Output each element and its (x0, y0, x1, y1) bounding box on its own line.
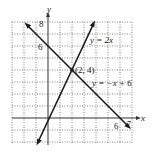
x-tick-7: 7 (127, 120, 131, 129)
arrow-icon (90, 21, 95, 28)
line-label-y-2x: y = 2x (89, 35, 113, 45)
y-tick-8: 8 (39, 19, 44, 29)
y-axis-label: y (46, 4, 51, 14)
arrow-icon (37, 139, 42, 146)
line-label-neg-x-6: y = −x + 6 (91, 78, 132, 88)
intersection-point (70, 68, 74, 72)
y-tick-6: 6 (38, 42, 43, 52)
line-y-equals-neg-x-plus-6 (25, 23, 132, 130)
line-y-equals-2x (37, 21, 96, 146)
x-axis-label: x (140, 113, 145, 123)
intersection-label: (2, 4) (75, 65, 95, 75)
x-tick-6: 6 (114, 121, 119, 131)
chart: y x 8 6 6 7 y = 2x (2, 4) y = −x + 6 (0, 0, 153, 155)
